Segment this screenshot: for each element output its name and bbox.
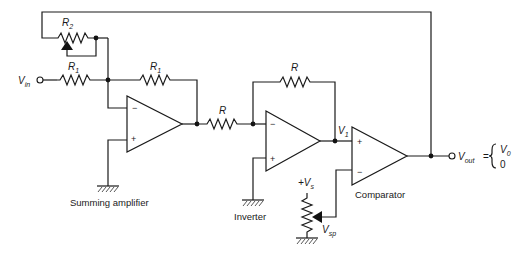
feedback-loop-wire bbox=[42, 12, 431, 155]
vs-label: +Vs bbox=[298, 177, 315, 190]
comparator-caption: Comparator bbox=[355, 189, 405, 200]
plus-input-sign: + bbox=[131, 134, 136, 144]
r-series-resistor: R bbox=[197, 105, 253, 129]
output-node bbox=[429, 154, 434, 159]
v1-node bbox=[333, 139, 338, 144]
r-inverter-feedback-label: R bbox=[291, 62, 298, 73]
vin-label: Vin bbox=[18, 75, 30, 88]
setpoint-ground-icon bbox=[296, 238, 318, 244]
vin-input: Vin R1 bbox=[18, 61, 108, 88]
vsp-wiper-arrow-icon bbox=[312, 211, 322, 223]
equals-sign: = bbox=[483, 151, 489, 162]
brace-icon bbox=[489, 144, 496, 168]
setpoint-potentiometer: +Vs Vsp bbox=[298, 177, 336, 238]
minus-input-sign: − bbox=[357, 167, 362, 177]
zero-value: 0 bbox=[500, 159, 506, 170]
summing-amplifier-caption: Summing amplifier bbox=[70, 197, 149, 208]
summing-amp-ground-icon bbox=[97, 186, 119, 192]
plus-input-sign: + bbox=[357, 137, 362, 147]
inverter-caption: Inverter bbox=[234, 211, 266, 222]
r1-input-label: R1 bbox=[68, 61, 79, 74]
minus-input-sign: − bbox=[270, 119, 275, 129]
r2-label: R2 bbox=[62, 17, 73, 30]
r1-input-resistor bbox=[57, 75, 108, 85]
v1-label: V1 bbox=[338, 125, 349, 138]
r2-potentiometer: R2 bbox=[55, 17, 108, 80]
summing-amplifier-opamp: − + bbox=[108, 80, 199, 186]
inverter-ground-icon bbox=[242, 200, 264, 206]
vout-output: Vout = V0 0 bbox=[449, 144, 511, 170]
r-series-label: R bbox=[219, 105, 226, 116]
plus-input-sign: + bbox=[270, 154, 275, 164]
circuit-diagram: R2 Vin R1 R1 − + Summing amplifier R bbox=[0, 0, 527, 254]
v0-label: V0 bbox=[500, 144, 511, 157]
vsp-label: Vsp bbox=[322, 224, 336, 238]
vin-terminal bbox=[37, 77, 43, 83]
vout-label: Vout bbox=[458, 151, 475, 164]
r1-feedback-label: R1 bbox=[150, 61, 161, 74]
minus-input-sign: − bbox=[132, 103, 137, 113]
vout-terminal bbox=[449, 153, 455, 159]
r2-wiper-arrow-icon bbox=[61, 41, 73, 50]
